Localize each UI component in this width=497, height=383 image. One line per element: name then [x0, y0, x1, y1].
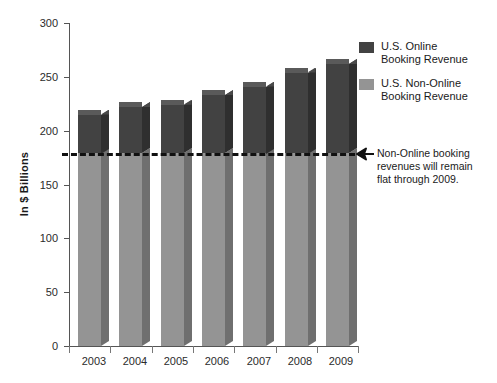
x-axis-tick-label: 2006 [197, 355, 237, 367]
legend-swatch-online [359, 42, 374, 53]
bar-face-top [202, 90, 225, 95]
bar-face-top [285, 68, 308, 73]
y-axis-tick-label: 250 [0, 72, 58, 82]
bar-segment-nononline [161, 153, 184, 346]
x-axis-line [69, 346, 358, 347]
bar-face-front [78, 153, 101, 346]
bar-face-side [349, 148, 357, 346]
x-axis-tick [358, 346, 359, 353]
y-axis-tick [64, 292, 70, 293]
x-axis-tick [69, 346, 70, 353]
bar-segment-nononline [119, 153, 142, 346]
bar-face-side [225, 90, 233, 153]
x-axis-tick-label: 2008 [280, 355, 320, 367]
bar-face-side [101, 110, 109, 154]
bar-2007 [243, 87, 274, 346]
y-axis-tick-label: 200 [0, 126, 58, 136]
legend-label-online: U.S. Online Booking Revenue [381, 40, 468, 66]
x-axis-tick-label: 2003 [74, 355, 114, 367]
bar-face-front [202, 153, 225, 346]
x-axis-tick-label: 2007 [239, 355, 279, 367]
y-axis-tick [64, 131, 70, 132]
bar-face-front [243, 87, 266, 154]
x-axis-tick-label: 2004 [115, 355, 155, 367]
y-axis-tick-label: 100 [0, 233, 58, 243]
bar-face-front [285, 153, 308, 346]
bar-face-side [266, 148, 274, 346]
bar-face-front [243, 153, 266, 346]
y-axis-tick-label: 0 [0, 341, 58, 351]
annotation-text: Non-Online booking revenues will remain … [377, 147, 495, 186]
bar-2009 [326, 64, 357, 346]
bar-face-top [326, 59, 349, 64]
y-axis-tick [64, 185, 70, 186]
bar-face-front [326, 64, 349, 153]
legend-label-online-line1: U.S. Online [381, 40, 468, 53]
x-axis-tick [234, 346, 235, 353]
bar-segment-online [285, 73, 308, 154]
bar-face-front [202, 95, 225, 153]
annotation-line2: revenues will remain [377, 160, 495, 173]
legend: U.S. Online Booking Revenue U.S. Non-Onl… [359, 40, 495, 114]
annotation-line3: flat through 2009. [377, 173, 495, 186]
bar-face-side [308, 68, 316, 154]
bar-face-front [119, 153, 142, 346]
bar-segment-online [119, 107, 142, 153]
annotation-line1: Non-Online booking [377, 147, 495, 160]
x-axis-tick [193, 346, 194, 353]
y-axis-tick [64, 238, 70, 239]
bar-segment-online [243, 87, 266, 154]
bar-segment-online [161, 105, 184, 153]
bar-face-front [161, 153, 184, 346]
bar-face-side [225, 148, 233, 346]
bar-face-side [184, 100, 192, 153]
bar-segment-nononline [326, 153, 349, 346]
bar-face-side [142, 102, 150, 153]
legend-item-nononline: U.S. Non-Online Booking Revenue [359, 77, 495, 103]
bar-segment-online [326, 64, 349, 153]
legend-label-online-line2: Booking Revenue [381, 53, 468, 66]
bar-face-side [142, 148, 150, 346]
bar-segment-nononline [78, 153, 101, 346]
bar-segment-nononline [202, 153, 225, 346]
bar-face-front [78, 115, 101, 154]
bar-face-top [161, 100, 184, 105]
x-axis-tick [276, 346, 277, 353]
legend-label-nononline: U.S. Non-Online Booking Revenue [381, 77, 468, 103]
bar-face-side [101, 148, 109, 346]
bar-2005 [161, 105, 192, 346]
bar-2008 [285, 73, 316, 346]
bar-face-top [78, 110, 101, 115]
bar-segment-nononline [285, 153, 308, 346]
y-axis-tick [64, 23, 70, 24]
bar-2003 [78, 115, 109, 346]
x-axis-tick-label: 2009 [321, 355, 361, 367]
bar-2006 [202, 95, 233, 346]
bar-face-side [266, 82, 274, 154]
x-axis-tick [152, 346, 153, 353]
bar-face-front [119, 107, 142, 153]
y-axis-tick [64, 77, 70, 78]
annotation-arrow-icon [347, 147, 375, 161]
bar-2004 [119, 107, 150, 346]
legend-label-nononline-line2: Booking Revenue [381, 90, 468, 103]
x-axis-tick [110, 346, 111, 353]
x-axis-tick [317, 346, 318, 353]
bar-face-front [285, 73, 308, 154]
bar-segment-online [78, 115, 101, 154]
bar-face-side [308, 148, 316, 346]
legend-item-online: U.S. Online Booking Revenue [359, 40, 495, 66]
bar-segment-nononline [243, 153, 266, 346]
bar-face-side [349, 59, 357, 153]
y-axis-tick-label: 150 [0, 180, 58, 190]
bar-face-top [119, 102, 142, 107]
bar-face-top [243, 82, 266, 87]
bar-face-side [184, 148, 192, 346]
bar-segment-online [202, 95, 225, 153]
reference-line-dashed [62, 153, 364, 156]
bar-chart: In $ Billions 05010015020025030020032004… [0, 0, 497, 383]
legend-swatch-nononline [359, 79, 374, 90]
y-axis-tick-label: 300 [0, 18, 58, 28]
bar-face-front [326, 153, 349, 346]
y-axis-tick-label: 50 [0, 287, 58, 297]
